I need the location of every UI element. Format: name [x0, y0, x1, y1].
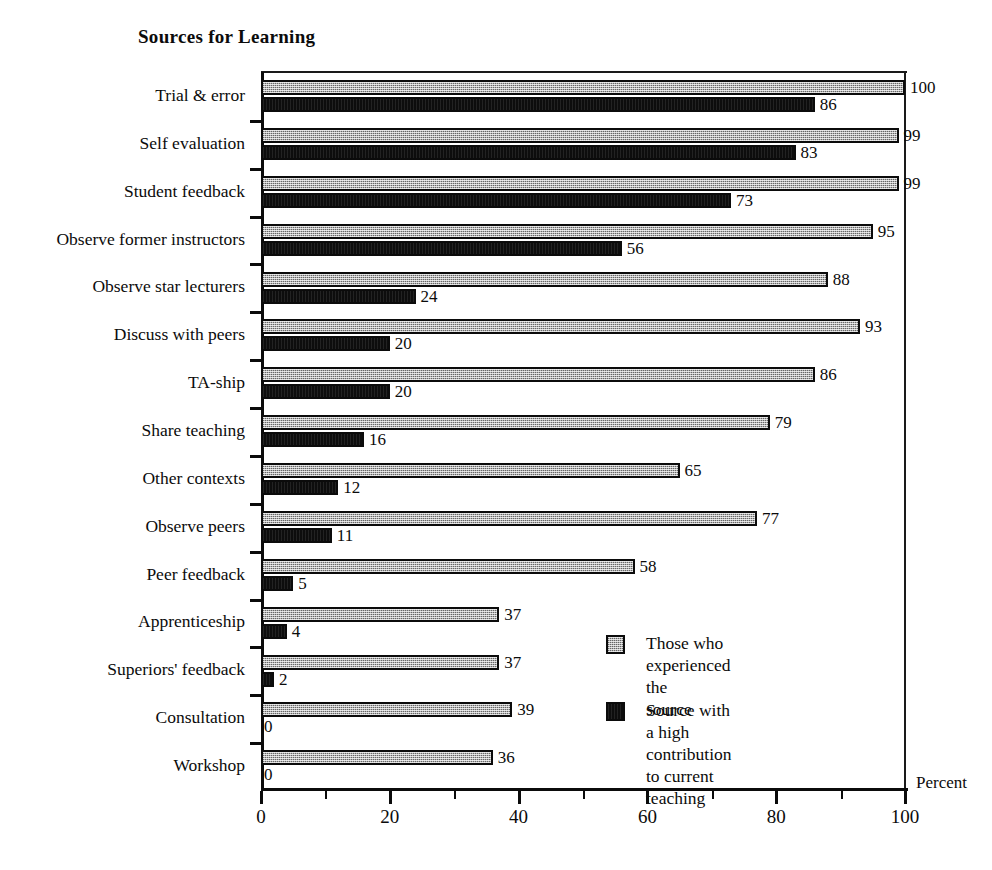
chart-category-row: Observe star lecturers8824: [261, 263, 905, 311]
x-axis-tick-label: 40: [509, 806, 528, 828]
x-axis-tick: [775, 791, 778, 804]
legend-swatch-high-contribution: [606, 702, 625, 721]
bar-high-contribution: [261, 193, 731, 208]
y-axis-tick: [250, 551, 261, 554]
y-axis-tick: [250, 455, 261, 458]
legend-label: Source with a high contribution to curre…: [646, 699, 732, 809]
chart-category-row: Observe former instructors9556: [261, 216, 905, 264]
bar-high-contribution: [261, 480, 338, 495]
bar-value-label: 20: [395, 383, 412, 400]
y-axis-category-label: TA-ship: [0, 374, 245, 392]
bar-value-label: 88: [833, 271, 850, 288]
y-axis-tick: [250, 503, 261, 506]
bar-value-label: 56: [627, 240, 644, 257]
chart-category-row: Observe peers7711: [261, 503, 905, 551]
bar-high-contribution: [261, 576, 293, 591]
plot-area: Trial & error10086Self evaluation9983Stu…: [261, 72, 905, 790]
y-axis-tick: [250, 359, 261, 362]
bar-experienced: [261, 272, 828, 287]
x-axis-tick: [646, 791, 649, 804]
x-axis-tick-label: 20: [380, 806, 399, 828]
chart-title: Sources for Learning: [138, 26, 315, 48]
bar-experienced: [261, 128, 899, 143]
y-axis-category-label: Superiors' feedback: [0, 661, 245, 679]
y-axis-tick: [250, 742, 261, 745]
chart-category-row: Apprenticeship374: [261, 599, 905, 647]
bar-experienced: [261, 367, 815, 382]
bar-high-contribution: [261, 336, 390, 351]
bar-value-label: 99: [904, 127, 921, 144]
chart-category-row: Student feedback9973: [261, 168, 905, 216]
bar-value-label: 83: [801, 144, 818, 161]
bar-value-label: 24: [421, 288, 438, 305]
x-axis-tick: [904, 791, 907, 804]
x-axis-tick: [260, 791, 263, 804]
x-axis-minor-tick: [712, 791, 714, 799]
chart-category-row: Self evaluation9983: [261, 120, 905, 168]
x-axis-tick-label: 100: [891, 806, 920, 828]
y-axis-tick: [250, 263, 261, 266]
bar-value-label: 36: [498, 749, 515, 766]
y-axis-category-label: Trial & error: [0, 87, 245, 105]
x-axis-tick-label: 60: [638, 806, 657, 828]
y-axis-tick: [250, 599, 261, 602]
bar-value-label: 0: [264, 718, 273, 735]
bar-value-label: 16: [369, 431, 386, 448]
bar-experienced: [261, 702, 512, 717]
x-axis-title: Percent: [916, 773, 967, 793]
bar-value-label: 95: [878, 223, 895, 240]
y-axis-category-label: Self evaluation: [0, 135, 245, 153]
chart-category-row: Consultation390: [261, 694, 905, 742]
bar-high-contribution: [261, 432, 364, 447]
x-axis-minor-tick: [325, 791, 327, 799]
bar-high-contribution: [261, 97, 815, 112]
chart-category-row: Superiors' feedback372: [261, 646, 905, 694]
y-axis-tick: [250, 694, 261, 697]
x-axis-tick: [389, 791, 392, 804]
y-axis-tick: [250, 311, 261, 314]
bar-value-label: 77: [762, 510, 779, 527]
y-axis-category-label: Student feedback: [0, 183, 245, 201]
y-axis-tick: [250, 216, 261, 219]
chart-category-row: TA-ship8620: [261, 359, 905, 407]
bar-experienced: [261, 559, 635, 574]
x-axis-tick: [518, 791, 521, 804]
x-axis-tick-label: 80: [767, 806, 786, 828]
bar-experienced: [261, 463, 680, 478]
x-axis-minor-tick: [454, 791, 456, 799]
bar-experienced: [261, 319, 860, 334]
bar-high-contribution: [261, 384, 390, 399]
y-axis-category-label: Workshop: [0, 757, 245, 775]
y-axis-tick: [250, 120, 261, 123]
bar-experienced: [261, 415, 770, 430]
bar-value-label: 11: [337, 527, 353, 544]
bar-value-label: 4: [292, 623, 301, 640]
bar-value-label: 86: [820, 366, 837, 383]
chart-category-row: Workshop360: [261, 742, 905, 790]
bar-value-label: 37: [504, 606, 521, 623]
bar-experienced: [261, 176, 899, 191]
bar-value-label: 58: [640, 558, 657, 575]
y-axis-category-label: Peer feedback: [0, 566, 245, 584]
bar-experienced: [261, 80, 905, 95]
y-axis-tick: [250, 168, 261, 171]
y-axis-category-label: Apprenticeship: [0, 613, 245, 631]
bar-high-contribution: [261, 145, 796, 160]
y-axis-category-label: Observe peers: [0, 518, 245, 536]
bar-high-contribution: [261, 241, 622, 256]
bar-value-label: 12: [343, 479, 360, 496]
bar-value-label: 37: [504, 654, 521, 671]
bar-experienced: [261, 655, 499, 670]
y-axis-category-label: Other contexts: [0, 470, 245, 488]
x-axis-tick-label: 0: [256, 806, 266, 828]
bar-value-label: 86: [820, 96, 837, 113]
bar-value-label: 20: [395, 335, 412, 352]
x-axis-minor-tick: [841, 791, 843, 799]
chart-category-row: Other contexts6512: [261, 455, 905, 503]
x-axis-minor-tick: [583, 791, 585, 799]
bar-value-label: 79: [775, 414, 792, 431]
y-axis-category-label: Consultation: [0, 709, 245, 727]
bar-value-label: 73: [736, 192, 753, 209]
bar-value-label: 93: [865, 318, 882, 335]
legend-swatch-experienced: [606, 635, 625, 654]
